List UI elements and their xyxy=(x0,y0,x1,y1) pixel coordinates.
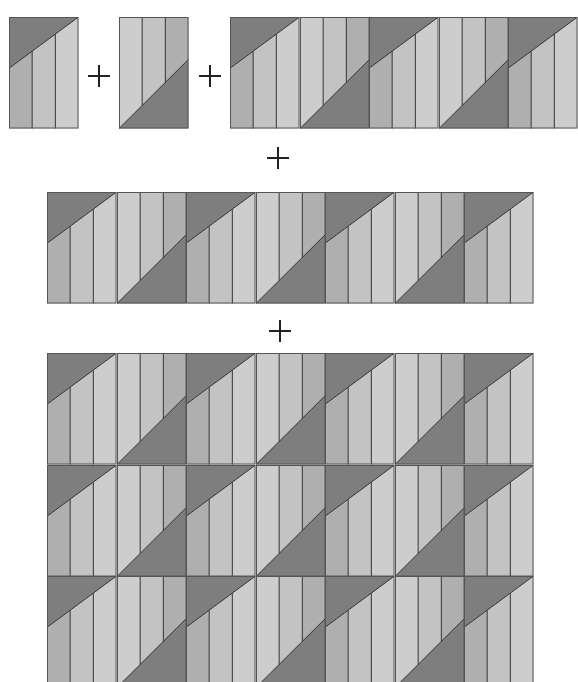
quilt-block-a xyxy=(464,192,534,304)
quilt-block-a xyxy=(9,17,79,129)
quilt-block-b xyxy=(117,465,187,577)
quilt-block-a xyxy=(47,576,117,682)
quilt-block-a xyxy=(325,465,395,577)
quilt-block-a xyxy=(325,353,395,465)
quilt-block-b xyxy=(256,465,326,577)
quilt-block-b xyxy=(300,17,370,129)
quilt-block-a xyxy=(186,192,256,304)
plus-sign-4 xyxy=(269,320,291,342)
quilt-block-a xyxy=(464,576,534,682)
quilt-grid xyxy=(47,353,534,682)
quilt-block-b xyxy=(395,465,465,577)
quilt-block-a xyxy=(186,576,256,682)
quilt-block-b xyxy=(395,353,465,465)
quilt-block-b xyxy=(117,353,187,465)
quilt-block-a xyxy=(47,465,117,577)
quilt-block-a xyxy=(508,17,578,129)
quilt-block-a xyxy=(230,17,300,129)
quilt-block-b xyxy=(256,576,326,682)
single-block-b xyxy=(119,17,189,129)
quilt-block-b xyxy=(439,17,509,129)
middle-block-strip xyxy=(47,192,534,304)
quilt-block-b xyxy=(117,576,187,682)
quilt-block-a xyxy=(47,192,117,304)
quilt-block-a xyxy=(325,192,395,304)
quilt-block-a xyxy=(369,17,439,129)
plus-sign-1 xyxy=(88,65,110,87)
quilt-block-b xyxy=(395,192,465,304)
quilt-block-b xyxy=(395,576,465,682)
quilt-block-b xyxy=(117,192,187,304)
quilt-grid-row xyxy=(47,353,534,465)
quilt-block-a xyxy=(186,465,256,577)
plus-sign-3 xyxy=(267,147,289,169)
quilt-block-b xyxy=(256,192,326,304)
quilt-block-a xyxy=(186,353,256,465)
quilt-block-a xyxy=(47,353,117,465)
quilt-block-a xyxy=(325,576,395,682)
quilt-block-a xyxy=(464,353,534,465)
plus-sign-2 xyxy=(199,65,221,87)
single-block-a xyxy=(9,17,79,129)
quilt-grid-row xyxy=(47,465,534,577)
quilt-block-b xyxy=(256,353,326,465)
quilt-block-a xyxy=(464,465,534,577)
quilt-grid-row xyxy=(47,576,534,682)
quilt-block-b xyxy=(119,17,189,129)
top-block-strip xyxy=(230,17,578,129)
